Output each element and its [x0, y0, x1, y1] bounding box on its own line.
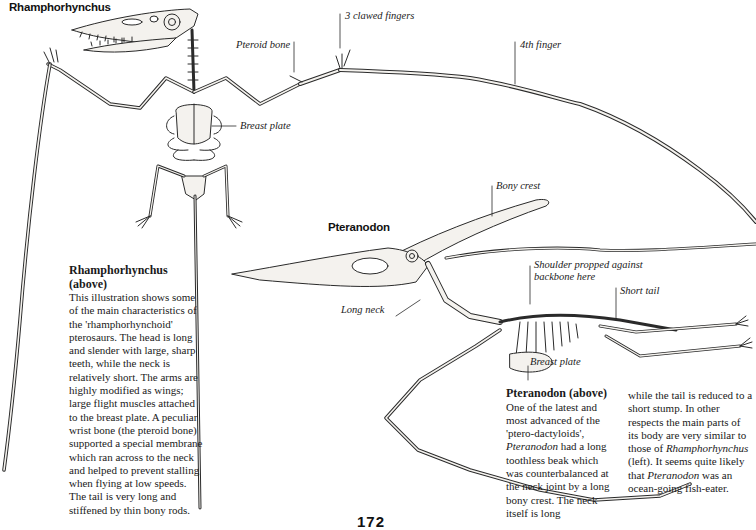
pteranodon-caption-heading: Pteranodon (above)	[506, 387, 618, 401]
label-breast-plate-rhampho: Breast plate	[240, 120, 291, 131]
pteranodon-caption-italic: Rhamphorhynchus	[666, 442, 748, 454]
label-breast-plate-ptera: Breast plate	[530, 356, 581, 367]
pteranodon-caption-col1: Pteranodon (above) One of the latest and…	[506, 387, 618, 520]
rhamphorhynchus-caption-heading-1: Rhamphorhynchus	[69, 264, 205, 278]
pteranodon-caption-italic: Pteranodon	[506, 440, 558, 452]
rhamphorhynchus-caption: Rhamphorhynchus (above) This illustratio…	[69, 264, 205, 517]
label-bony-crest: Bony crest	[496, 180, 540, 191]
pteranodon-caption-text: One of the latest and most advanced of t…	[506, 401, 600, 440]
label-shoulder-line1: Shoulder propped against	[534, 259, 643, 271]
pteranodon-caption-italic: Pteranodon	[647, 469, 699, 481]
label-shoulder-line2: backbone here	[534, 271, 643, 283]
pteranodon-caption-col2: while the tail is reduced to a short stu…	[628, 389, 752, 495]
label-clawed-fingers: 3 clawed fingers	[345, 10, 414, 21]
rhamphorhynchus-caption-body: This illustration shows some of the main…	[69, 291, 202, 516]
rhamphorhynchus-title: Rhamphorhynchus	[9, 1, 111, 13]
pteranodon-title: Pteranodon	[328, 221, 390, 233]
label-pteroid-bone: Pteroid bone	[236, 39, 290, 50]
label-long-neck: Long neck	[341, 304, 384, 315]
rhamphorhynchus-caption-heading-2: (above)	[69, 278, 205, 292]
label-4th-finger: 4th finger	[520, 39, 561, 50]
label-shoulder: Shoulder propped against backbone here	[534, 259, 643, 283]
label-short-tail: Short tail	[620, 285, 659, 296]
page-number: 172	[357, 513, 385, 530]
